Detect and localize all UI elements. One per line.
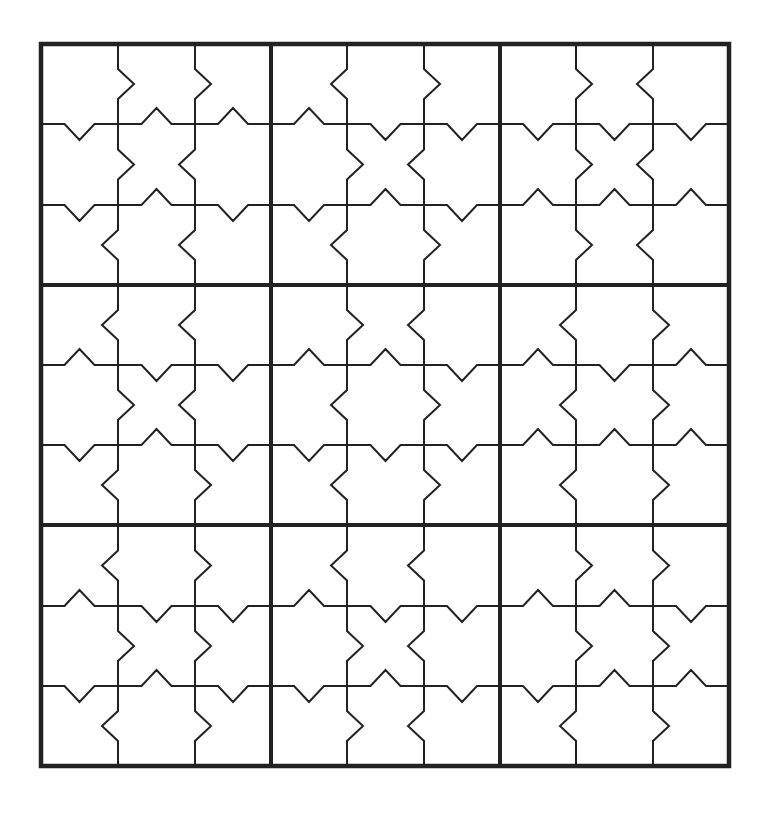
sudoku-cell-r5c5[interactable] (347, 365, 424, 445)
sudoku-cell-r6c2[interactable] (118, 445, 195, 525)
sudoku-cell-r4c9[interactable] (653, 285, 729, 365)
sudoku-cell-r9c6[interactable] (424, 686, 500, 766)
sudoku-cell-r4c1[interactable] (41, 285, 118, 365)
sudoku-cell-r4c2[interactable] (118, 285, 195, 365)
sudoku-cell-r1c2[interactable] (118, 44, 195, 124)
sudoku-cell-r6c7[interactable] (500, 445, 576, 525)
sudoku-cell-r7c5[interactable] (347, 525, 424, 606)
sudoku-cell-r6c8[interactable] (576, 445, 653, 525)
sudoku-cell-r2c3[interactable] (195, 124, 271, 205)
sudoku-cell-r3c8[interactable] (576, 205, 653, 285)
sudoku-cell-r1c1[interactable] (41, 44, 118, 124)
sudoku-cell-r4c6[interactable] (424, 285, 500, 365)
sudoku-cell-r7c4[interactable] (271, 525, 347, 606)
sudoku-cell-r9c7[interactable] (500, 686, 576, 766)
sudoku-cell-r9c3[interactable] (195, 686, 271, 766)
sudoku-cell-r2c1[interactable] (41, 124, 118, 205)
sudoku-cell-r2c9[interactable] (653, 124, 729, 205)
sudoku-cell-r3c1[interactable] (41, 205, 118, 285)
sudoku-cell-r6c9[interactable] (653, 445, 729, 525)
sudoku-cell-r1c5[interactable] (347, 44, 424, 124)
sudoku-cell-r8c8[interactable] (576, 606, 653, 686)
sudoku-cell-r2c7[interactable] (500, 124, 576, 205)
sudoku-cell-r3c6[interactable] (424, 205, 500, 285)
sudoku-cell-r4c7[interactable] (500, 285, 576, 365)
sudoku-cell-r5c1[interactable] (41, 365, 118, 445)
sudoku-cell-r8c2[interactable] (118, 606, 195, 686)
sudoku-cell-r5c4[interactable] (271, 365, 347, 445)
sudoku-cell-r7c6[interactable] (424, 525, 500, 606)
sudoku-cell-r8c9[interactable] (653, 606, 729, 686)
sudoku-cell-r2c6[interactable] (424, 124, 500, 205)
sudoku-cell-r7c2[interactable] (118, 525, 195, 606)
sudoku-cell-r7c7[interactable] (500, 525, 576, 606)
sudoku-cell-r3c5[interactable] (347, 205, 424, 285)
sudoku-cell-r8c6[interactable] (424, 606, 500, 686)
sudoku-cell-r6c1[interactable] (41, 445, 118, 525)
sudoku-cell-r2c5[interactable] (347, 124, 424, 205)
sudoku-cell-r3c4[interactable] (271, 205, 347, 285)
sudoku-cell-r7c8[interactable] (576, 525, 653, 606)
sudoku-cell-r5c6[interactable] (424, 365, 500, 445)
sudoku-cell-r5c9[interactable] (653, 365, 729, 445)
sudoku-cell-r8c1[interactable] (41, 606, 118, 686)
sudoku-cell-r4c5[interactable] (347, 285, 424, 365)
sudoku-cell-r6c4[interactable] (271, 445, 347, 525)
sudoku-cell-r8c4[interactable] (271, 606, 347, 686)
sudoku-cell-r6c5[interactable] (347, 445, 424, 525)
sudoku-cell-r3c9[interactable] (653, 205, 729, 285)
sudoku-cell-r5c3[interactable] (195, 365, 271, 445)
jigsaw-sudoku-grid (0, 0, 774, 816)
sudoku-cell-r4c8[interactable] (576, 285, 653, 365)
sudoku-cell-r2c8[interactable] (576, 124, 653, 205)
sudoku-cell-r8c5[interactable] (347, 606, 424, 686)
sudoku-cell-r7c9[interactable] (653, 525, 729, 606)
sudoku-cell-r6c3[interactable] (195, 445, 271, 525)
sudoku-cell-r9c4[interactable] (271, 686, 347, 766)
sudoku-cell-r4c3[interactable] (195, 285, 271, 365)
sudoku-cell-r1c7[interactable] (500, 44, 576, 124)
sudoku-cell-r8c7[interactable] (500, 606, 576, 686)
sudoku-cell-r1c9[interactable] (653, 44, 729, 124)
sudoku-cell-r1c8[interactable] (576, 44, 653, 124)
sudoku-cell-r4c4[interactable] (271, 285, 347, 365)
sudoku-cell-r3c7[interactable] (500, 205, 576, 285)
sudoku-cell-r1c4[interactable] (271, 44, 347, 124)
sudoku-cell-r3c3[interactable] (195, 205, 271, 285)
sudoku-cell-r2c4[interactable] (271, 124, 347, 205)
sudoku-cell-r2c2[interactable] (118, 124, 195, 205)
sudoku-cell-r7c3[interactable] (195, 525, 271, 606)
sudoku-cell-r8c3[interactable] (195, 606, 271, 686)
cells-layer (41, 44, 729, 766)
sudoku-cell-r5c8[interactable] (576, 365, 653, 445)
sudoku-cell-r9c9[interactable] (653, 686, 729, 766)
sudoku-cell-r5c2[interactable] (118, 365, 195, 445)
sudoku-cell-r9c5[interactable] (347, 686, 424, 766)
sudoku-cell-r6c6[interactable] (424, 445, 500, 525)
sudoku-cell-r9c8[interactable] (576, 686, 653, 766)
sudoku-cell-r9c1[interactable] (41, 686, 118, 766)
sudoku-cell-r9c2[interactable] (118, 686, 195, 766)
sudoku-cell-r3c2[interactable] (118, 205, 195, 285)
sudoku-cell-r1c3[interactable] (195, 44, 271, 124)
sudoku-cell-r1c6[interactable] (424, 44, 500, 124)
sudoku-cell-r7c1[interactable] (41, 525, 118, 606)
sudoku-cell-r5c7[interactable] (500, 365, 576, 445)
